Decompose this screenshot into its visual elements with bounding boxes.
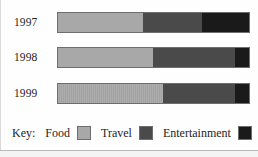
legend-title: Key:	[12, 126, 35, 141]
year-label-1999: 1999	[14, 86, 54, 101]
bar-segment-food-1999[interactable]	[58, 84, 163, 103]
legend-item-food[interactable]: Food	[45, 126, 91, 141]
bar-row-1999: 1999	[0, 83, 258, 105]
legend-label-food: Food	[45, 126, 70, 141]
stacked-bar-1997	[57, 12, 250, 33]
legend-swatch-entertainment-icon	[238, 126, 252, 140]
legend-swatch-food-icon	[77, 126, 91, 140]
legend-label-entertainment: Entertainment	[163, 126, 231, 141]
legend-label-travel: Travel	[101, 126, 132, 141]
bar-segment-food-1997[interactable]	[58, 13, 143, 32]
page-margin-strip	[0, 151, 258, 157]
bar-segment-entertainment-1998[interactable]	[235, 48, 249, 67]
legend-item-entertainment[interactable]: Entertainment	[163, 126, 252, 141]
legend-item-travel[interactable]: Travel	[101, 126, 153, 141]
stacked-bar-chart: 1997 1998 1999 Key: Food Trav	[0, 0, 258, 157]
bar-segment-food-1998[interactable]	[58, 48, 153, 67]
bar-segment-travel-1999[interactable]	[163, 84, 235, 103]
bar-segment-entertainment-1999[interactable]	[235, 84, 249, 103]
bar-segment-travel-1998[interactable]	[153, 48, 235, 67]
year-label-1997: 1997	[14, 15, 54, 30]
bar-row-1998: 1998	[0, 47, 258, 69]
bar-segment-travel-1997[interactable]	[143, 13, 201, 32]
stacked-bar-1999	[57, 83, 250, 104]
bar-row-1997: 1997	[0, 12, 258, 34]
year-label-1998: 1998	[14, 50, 54, 65]
chart-legend: Key: Food Travel Entertainment	[0, 120, 258, 146]
bar-segment-entertainment-1997[interactable]	[202, 13, 249, 32]
legend-swatch-travel-icon	[139, 126, 153, 140]
stacked-bar-1998	[57, 47, 250, 68]
